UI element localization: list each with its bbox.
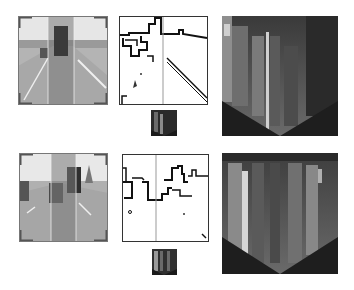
- row1-thumbnail: [151, 110, 177, 136]
- row1-edge-map: [119, 16, 208, 105]
- row2-thumbnail: [152, 249, 177, 275]
- row2-edge-map: [122, 154, 209, 242]
- row1-accumulation-map: [222, 16, 338, 136]
- row2-accumulation-map: [222, 153, 338, 274]
- row1-original-frame: [18, 16, 108, 105]
- row2-original-frame: [19, 153, 108, 242]
